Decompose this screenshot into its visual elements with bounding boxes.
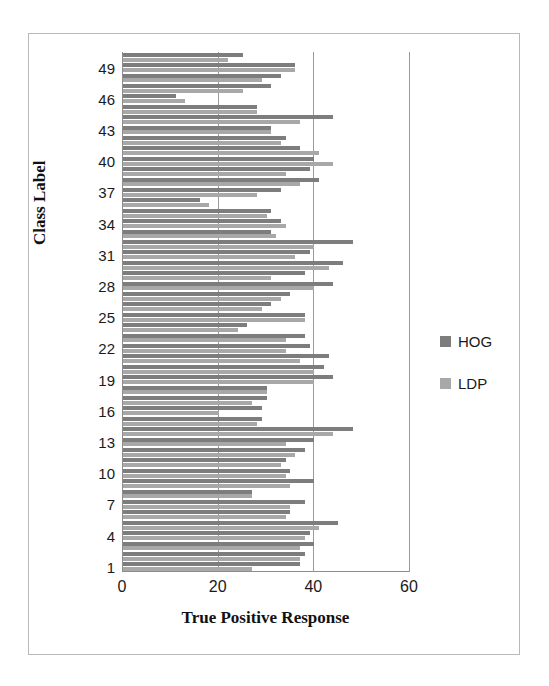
bar-ldp-class-50 — [123, 58, 228, 62]
y-tick-10: 10 — [67, 466, 115, 481]
bar-ldp-class-39 — [123, 172, 286, 176]
gridline-x-40 — [313, 52, 314, 572]
bar-hog-class-37 — [123, 188, 281, 192]
x-tick-40: 40 — [304, 578, 322, 596]
bar-hog-class-3 — [123, 542, 314, 546]
bar-hog-class-1 — [123, 562, 300, 566]
y-tick-34: 34 — [67, 217, 115, 232]
bar-ldp-class-32 — [123, 245, 314, 249]
gridline-x-60 — [409, 52, 410, 572]
bar-ldp-class-31 — [123, 255, 295, 259]
bar-ldp-class-16 — [123, 411, 219, 415]
bar-hog-class-34 — [123, 219, 281, 223]
bar-ldp-class-46 — [123, 99, 185, 103]
y-tick-25: 25 — [67, 310, 115, 325]
bar-hog-class-48 — [123, 74, 281, 78]
bar-hog-class-24 — [123, 323, 247, 327]
bar-ldp-class-34 — [123, 224, 286, 228]
bar-ldp-class-10 — [123, 474, 286, 478]
y-tick-4: 4 — [67, 529, 115, 544]
bar-hog-class-50 — [123, 53, 243, 57]
bar-ldp-class-37 — [123, 193, 257, 197]
x-tick-20: 20 — [209, 578, 227, 596]
bar-hog-class-40 — [123, 157, 314, 161]
bar-hog-class-25 — [123, 313, 305, 317]
bar-hog-class-31 — [123, 250, 310, 254]
y-axis-tick-labels: 1471013161922252831343740434649 — [60, 52, 115, 572]
bar-hog-class-14 — [123, 427, 353, 431]
bar-ldp-class-48 — [123, 78, 262, 82]
y-tick-19: 19 — [67, 373, 115, 388]
bar-hog-class-49 — [123, 63, 295, 67]
y-tick-22: 22 — [67, 341, 115, 356]
bar-hog-class-43 — [123, 126, 271, 130]
bar-ldp-class-17 — [123, 401, 252, 405]
bar-ldp-class-9 — [123, 484, 290, 488]
y-tick-16: 16 — [67, 404, 115, 419]
bar-ldp-class-33 — [123, 234, 276, 238]
bar-hog-class-46 — [123, 94, 176, 98]
y-tick-43: 43 — [67, 123, 115, 138]
legend-item-ldp[interactable]: LDP — [440, 375, 520, 392]
bar-ldp-class-6 — [123, 515, 286, 519]
bar-hog-class-44 — [123, 115, 333, 119]
bar-ldp-class-22 — [123, 349, 286, 353]
bar-ldp-class-29 — [123, 276, 271, 280]
x-axis-title: True Positive Response — [122, 608, 409, 628]
y-axis-title: Class Label — [30, 160, 50, 245]
bar-hog-class-10 — [123, 469, 290, 473]
bar-ldp-class-40 — [123, 162, 333, 166]
bar-hog-class-27 — [123, 292, 290, 296]
y-tick-7: 7 — [67, 497, 115, 512]
bar-hog-class-23 — [123, 334, 305, 338]
bar-hog-class-41 — [123, 146, 300, 150]
legend-item-hog[interactable]: HOG — [440, 333, 520, 350]
bar-hog-class-30 — [123, 261, 343, 265]
y-tick-31: 31 — [67, 248, 115, 263]
bar-hog-class-36 — [123, 198, 200, 202]
bar-ldp-class-35 — [123, 214, 267, 218]
y-tick-1: 1 — [67, 560, 115, 575]
bar-hog-class-11 — [123, 458, 286, 462]
bar-hog-class-19 — [123, 375, 333, 379]
y-tick-46: 46 — [67, 92, 115, 107]
bar-hog-class-15 — [123, 417, 262, 421]
bar-ldp-class-26 — [123, 307, 262, 311]
bar-hog-class-7 — [123, 500, 305, 504]
bar-hog-class-42 — [123, 136, 286, 140]
bar-hog-class-5 — [123, 521, 338, 525]
bar-hog-class-13 — [123, 438, 314, 442]
bar-hog-class-35 — [123, 209, 271, 213]
bar-hog-class-32 — [123, 240, 353, 244]
bar-ldp-class-30 — [123, 266, 329, 270]
bar-ldp-class-44 — [123, 120, 300, 124]
bar-hog-class-6 — [123, 510, 290, 514]
bar-ldp-class-21 — [123, 359, 300, 363]
bar-hog-class-45 — [123, 105, 257, 109]
bar-hog-class-33 — [123, 230, 271, 234]
bar-ldp-class-25 — [123, 318, 305, 322]
bar-hog-class-8 — [123, 490, 252, 494]
bar-hog-class-18 — [123, 386, 267, 390]
bar-hog-class-9 — [123, 479, 314, 483]
bar-ldp-class-20 — [123, 370, 314, 374]
bar-ldp-class-19 — [123, 380, 314, 384]
bar-hog-class-22 — [123, 344, 310, 348]
plot-area — [122, 52, 409, 572]
bar-hog-class-20 — [123, 365, 324, 369]
bar-ldp-class-1 — [123, 567, 252, 571]
bar-hog-class-26 — [123, 302, 271, 306]
legend-label-ldp: LDP — [458, 375, 487, 392]
bar-ldp-class-13 — [123, 442, 286, 446]
bar-hog-class-29 — [123, 271, 305, 275]
bar-hog-class-12 — [123, 448, 305, 452]
bar-ldp-class-5 — [123, 526, 319, 530]
bar-hog-class-17 — [123, 396, 267, 400]
bar-ldp-class-12 — [123, 453, 295, 457]
legend-label-hog: HOG — [458, 333, 492, 350]
bar-ldp-class-41 — [123, 151, 319, 155]
y-tick-40: 40 — [67, 154, 115, 169]
bar-ldp-class-14 — [123, 432, 333, 436]
bar-ldp-class-23 — [123, 338, 286, 342]
y-tick-13: 13 — [67, 435, 115, 450]
